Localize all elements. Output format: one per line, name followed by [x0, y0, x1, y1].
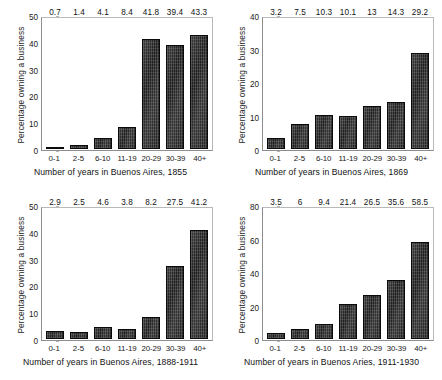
x-tick-label: 6-10 [91, 344, 115, 353]
bar: 10.3 [315, 115, 333, 149]
bar-item: 4.6 [91, 209, 115, 339]
bar-value-label: 9.4 [318, 198, 330, 207]
bar: 58.5 [411, 242, 429, 339]
y-tick-label: 20 [250, 303, 259, 312]
bar: 4.6 [94, 327, 112, 339]
y-axis-ticks: 020406080 [238, 207, 259, 341]
x-tick-label: 20-29 [360, 344, 384, 353]
x-axis-ticks: 0-12-56-1011-1920-2930-3940+ [42, 154, 212, 163]
y-tick-label: 0 [33, 147, 38, 156]
y-tick-label: 20 [29, 283, 38, 292]
bar-item: 8.2 [139, 209, 163, 339]
y-axis-ticks: 01020304050 [17, 207, 38, 341]
x-axis-ticks: 0-12-56-1011-1920-2930-3940+ [263, 344, 433, 353]
bar: 3.5 [267, 333, 285, 339]
bar-value-label: 41.8 [143, 8, 159, 17]
bar: 3.2 [267, 138, 285, 149]
bar: 4.1 [94, 138, 112, 149]
bar-value-label: 14.3 [388, 8, 404, 17]
bar-value-label: 10.3 [316, 8, 332, 17]
x-tick-label: 6-10 [91, 154, 115, 163]
bar-value-label: 2.5 [73, 198, 85, 207]
bar-series: 0.71.44.18.441.839.443.3 [43, 19, 211, 149]
y-tick-label: 40 [29, 39, 38, 48]
x-tick-label: 20-29 [139, 154, 163, 163]
x-tick-label: 40+ [188, 154, 212, 163]
bar-value-label: 39.4 [167, 8, 183, 17]
bar: 8.4 [118, 127, 136, 149]
bar-value-label: 2.9 [49, 198, 61, 207]
y-tick-label: 40 [250, 13, 259, 22]
bar: 29.2 [411, 53, 429, 149]
chart-panel-1855: Percentage owning a business 01020304050… [0, 0, 221, 190]
bar-value-label: 3.8 [121, 198, 133, 207]
bar-series: 3.569.421.426.535.658.5 [264, 209, 432, 339]
x-axis-label: Number of years in Buenos Aires, 1869 [221, 167, 442, 177]
bar-value-label: 4.6 [97, 198, 109, 207]
bar-value-label: 35.6 [388, 198, 404, 207]
bar: 7.5 [291, 124, 309, 149]
bar-value-label: 41.2 [191, 198, 207, 207]
y-tick-label: 30 [250, 46, 259, 55]
bar-series: 3.27.510.310.11314.329.2 [264, 19, 432, 149]
y-tick-label: 30 [29, 256, 38, 265]
x-tick-label: 11-19 [336, 154, 360, 163]
bar-item: 3.5 [264, 209, 288, 339]
bar: 6 [291, 329, 309, 339]
y-tick-label: 0 [33, 337, 38, 346]
bar-item: 21.4 [336, 209, 360, 339]
bar-value-label: 26.5 [364, 198, 380, 207]
bar-chart-figure-grid: Percentage owning a business 01020304050… [0, 0, 442, 380]
bar-item: 9.4 [312, 209, 336, 339]
bar-item: 39.4 [163, 19, 187, 149]
x-tick-label: 30-39 [163, 344, 187, 353]
bar-item: 41.2 [187, 209, 211, 339]
bar-value-label: 21.4 [340, 198, 356, 207]
bar-item: 10.1 [336, 19, 360, 149]
bar-value-label: 6 [298, 198, 303, 207]
x-tick-label: 30-39 [163, 154, 187, 163]
x-axis-label: Number of years in Buenos Aires, 1855 [0, 167, 221, 177]
chart-panel-1911-1930: Percentage owning a business 020406080 3… [221, 190, 442, 380]
bar-value-label: 29.2 [412, 8, 428, 17]
chart-panel-1888-1911: Percentage owning a business 01020304050… [0, 190, 221, 380]
x-tick-label: 2-5 [287, 344, 311, 353]
bar-value-label: 3.2 [270, 8, 282, 17]
bar-item: 35.6 [384, 209, 408, 339]
x-axis-label: Number of years in Buenos Aries, 1911-19… [221, 357, 442, 367]
y-tick-label: 10 [29, 310, 38, 319]
bar-value-label: 4.1 [97, 8, 109, 17]
x-tick-label: 6-10 [312, 344, 336, 353]
bar-item: 8.4 [115, 19, 139, 149]
bar-item: 29.2 [408, 19, 432, 149]
y-tick-label: 10 [250, 113, 259, 122]
bar-item: 1.4 [67, 19, 91, 149]
bar-item: 10.3 [312, 19, 336, 149]
bar: 35.6 [387, 280, 405, 339]
bar: 1.4 [70, 145, 88, 149]
bar-item: 41.8 [139, 19, 163, 149]
bar-value-label: 27.5 [167, 198, 183, 207]
bar-item: 26.5 [360, 209, 384, 339]
bar: 14.3 [387, 102, 405, 149]
x-tick-label: 40+ [409, 154, 433, 163]
y-tick-label: 0 [254, 147, 259, 156]
bar-item: 3.8 [115, 209, 139, 339]
bar: 3.8 [118, 329, 136, 339]
x-tick-label: 0-1 [42, 344, 66, 353]
bar: 13 [363, 106, 381, 149]
y-tick-label: 0 [254, 337, 259, 346]
bar-item: 14.3 [384, 19, 408, 149]
x-tick-label: 6-10 [312, 154, 336, 163]
y-tick-label: 20 [250, 80, 259, 89]
bar-item: 3.2 [264, 19, 288, 149]
bar-item: 43.3 [187, 19, 211, 149]
bar: 0.7 [46, 147, 64, 149]
x-tick-label: 40+ [188, 344, 212, 353]
x-tick-label: 20-29 [360, 154, 384, 163]
y-axis-ticks: 010203040 [238, 17, 259, 151]
plot-area: 2.92.54.63.88.227.541.2 [41, 207, 213, 341]
bar: 41.8 [142, 39, 160, 149]
bar-item: 2.9 [43, 209, 67, 339]
bar-item: 58.5 [408, 209, 432, 339]
